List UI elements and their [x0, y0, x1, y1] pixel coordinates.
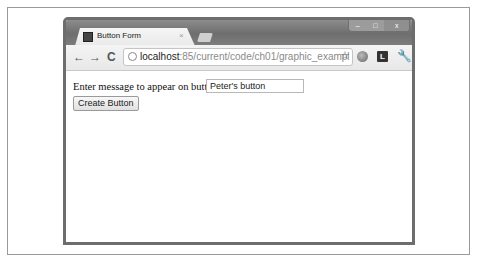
- message-input[interactable]: [206, 79, 304, 93]
- browser-toolbar: ← → C localhost:85/current/code/ch01/gra…: [66, 45, 412, 71]
- title-bar: Button Form × – □ x: [66, 20, 412, 45]
- globe-extension-icon[interactable]: [357, 51, 368, 62]
- reload-icon[interactable]: C: [107, 50, 116, 64]
- message-label: Enter message to appear on button:: [73, 81, 221, 92]
- url-host: localhost: [140, 51, 179, 62]
- page-favicon-icon: [83, 32, 93, 42]
- maximize-button[interactable]: □: [367, 20, 385, 31]
- window-controls: – □ x: [348, 20, 410, 32]
- url-path: :85/current/code/ch01/graphic_exampl: [179, 51, 349, 62]
- minimize-button[interactable]: –: [349, 20, 367, 31]
- close-window-button[interactable]: x: [384, 20, 409, 31]
- tab-button-form[interactable]: Button Form ×: [75, 28, 195, 46]
- create-button[interactable]: Create Button: [73, 96, 139, 111]
- new-tab-button[interactable]: [197, 33, 213, 42]
- forward-arrow-icon[interactable]: →: [89, 50, 101, 64]
- wrench-menu-icon[interactable]: 🔧: [397, 49, 412, 63]
- bookmark-star-icon[interactable]: ☆: [340, 49, 350, 62]
- page-info-icon[interactable]: [128, 52, 137, 61]
- tab-close-icon[interactable]: ×: [179, 31, 184, 40]
- back-arrow-icon[interactable]: ←: [73, 50, 85, 64]
- tab-title: Button Form: [97, 31, 141, 40]
- address-bar[interactable]: localhost:85/current/code/ch01/graphic_e…: [123, 48, 353, 66]
- url-text: localhost:85/current/code/ch01/graphic_e…: [140, 49, 350, 65]
- page-content: Enter message to appear on button: Creat…: [66, 71, 412, 242]
- browser-window: Button Form × – □ x ← → C localhost:85/c…: [63, 17, 415, 245]
- l-extension-icon[interactable]: L: [377, 51, 388, 62]
